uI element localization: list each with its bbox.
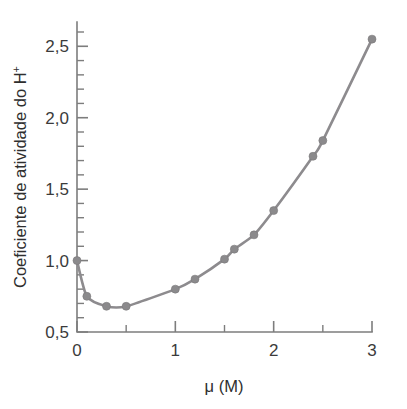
x-tick-label: 1 — [171, 341, 180, 360]
data-point — [103, 302, 111, 310]
y-tick-label: 1,0 — [45, 252, 69, 271]
data-point — [250, 231, 258, 239]
axis-frame — [77, 22, 372, 332]
data-point — [191, 275, 199, 283]
y-tick-label: 2,5 — [45, 37, 69, 56]
y-axis-title-base: Coeficiente de atividade do H — [11, 72, 29, 288]
y-tick-label: 2,0 — [45, 109, 69, 128]
data-point — [368, 35, 376, 43]
data-point — [319, 137, 327, 145]
data-group — [73, 35, 376, 310]
y-tick-label: 1,5 — [45, 180, 69, 199]
data-markers — [73, 35, 376, 310]
y-axis-tick-labels: 0,51,01,52,02,5 — [45, 37, 69, 342]
activity-coefficient-plot: 0,51,01,52,02,5 0123 μ (M) Coeficiente d… — [0, 0, 407, 409]
chart-figure: 0,51,01,52,02,5 0123 μ (M) Coeficiente d… — [0, 0, 407, 409]
y-tick-label: 0,5 — [45, 323, 69, 342]
axes-group — [77, 22, 372, 332]
data-point — [122, 302, 130, 310]
data-point — [270, 207, 278, 215]
tick-labels-group: 0,51,01,52,02,5 0123 — [45, 37, 376, 360]
data-point — [83, 292, 91, 300]
data-curve — [77, 39, 372, 307]
x-axis-title: μ (M) — [205, 377, 244, 395]
data-point — [309, 152, 317, 160]
x-tick-label: 3 — [367, 341, 376, 360]
data-point — [73, 257, 81, 265]
y-axis-title-superscript: + — [10, 66, 22, 72]
data-point — [171, 285, 179, 293]
x-tick-label: 0 — [72, 341, 81, 360]
x-tick-label: 2 — [269, 341, 278, 360]
data-point — [221, 255, 229, 263]
data-point — [230, 245, 238, 253]
y-axis-title: Coeficiente de atividade do H+ — [10, 66, 29, 288]
x-axis-tick-labels: 0123 — [72, 341, 376, 360]
x-axis-minor-ticks — [126, 325, 323, 332]
